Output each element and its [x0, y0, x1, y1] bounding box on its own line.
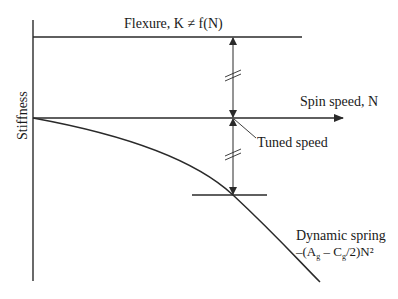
- stiffness-axis-label: Stiffness: [15, 91, 30, 140]
- formula-middle: – C: [320, 244, 342, 259]
- stiffness-vs-spin-speed-diagram: Flexure, K ≠ f(N) Spin speed, N Tuned sp…: [0, 0, 398, 299]
- dynamic-spring-label: Dynamic spring: [296, 228, 386, 243]
- spin-speed-axis-label: Spin speed, N: [300, 94, 378, 109]
- dynamic-spring-formula: –(Ag – Cg/2)N²: [295, 244, 374, 261]
- tuned-speed-label: Tuned speed: [257, 135, 328, 150]
- formula-prefix: –(A: [295, 244, 317, 259]
- flexure-label: Flexure, K ≠ f(N): [124, 16, 223, 32]
- tuned-speed-leader: [234, 119, 256, 138]
- formula-suffix: /2)N²: [346, 244, 374, 259]
